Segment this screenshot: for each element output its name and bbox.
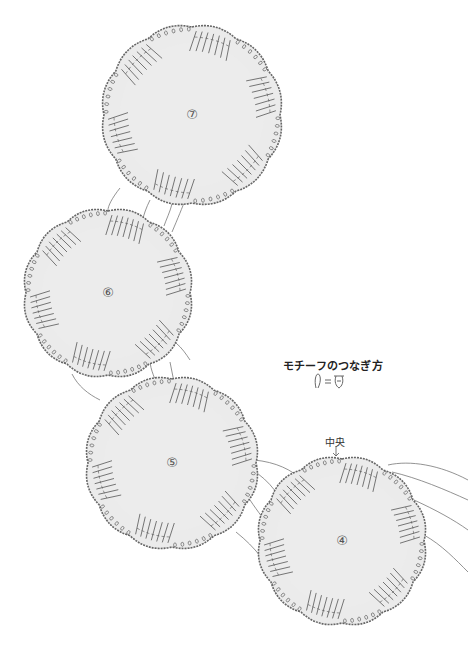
motifs-group: [24, 26, 425, 625]
joining-line: [176, 343, 190, 360]
motif-number-5: ⑤: [164, 455, 180, 471]
motif-number-6: ⑥: [100, 285, 116, 301]
joining-line: [164, 204, 172, 226]
joining-line: [236, 532, 260, 556]
joining-line: [72, 374, 100, 400]
motif-number-4: ④: [334, 533, 350, 549]
motif-joining-diagram: [0, 0, 468, 649]
join-picot-icon: [312, 372, 348, 390]
joining-line: [388, 463, 468, 480]
legend-join-symbol: [312, 372, 348, 393]
motif-number-7: ⑦: [184, 107, 200, 123]
arrow-down-icon: [330, 446, 342, 458]
legend-title: モチーフのつなぎ方: [283, 357, 383, 373]
joining-line: [424, 535, 468, 572]
joining-line: [108, 188, 120, 210]
